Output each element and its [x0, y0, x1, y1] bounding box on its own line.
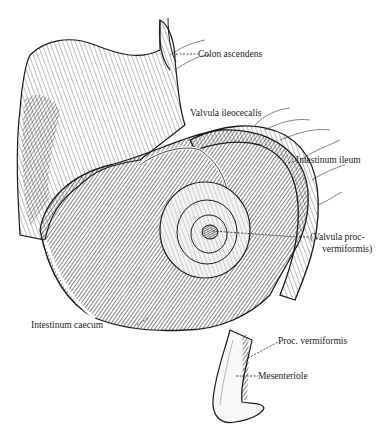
appendix-shape — [213, 330, 264, 423]
label-valvula-proc-line2: vermiformis) — [322, 244, 372, 254]
label-colon-ascendens: Colon ascendens — [198, 49, 262, 59]
label-intestinum-ileum: Intestinum ileum — [296, 155, 361, 165]
label-mesenteriole: Mesenteriole — [258, 371, 308, 381]
label-valvula-proc-line1: (Valvula proc- — [310, 232, 365, 242]
label-intestinum-caecum: Intestinum caecum — [31, 320, 103, 330]
illustration-drawing — [0, 0, 386, 437]
anatomical-illustration: Colon ascendens Valvula ileocecalis Inte… — [0, 0, 386, 437]
label-valvula-ileocecalis: Valvula ileocecalis — [190, 108, 261, 118]
label-proc-vermiformis: Proc. vermiformis — [278, 336, 347, 346]
